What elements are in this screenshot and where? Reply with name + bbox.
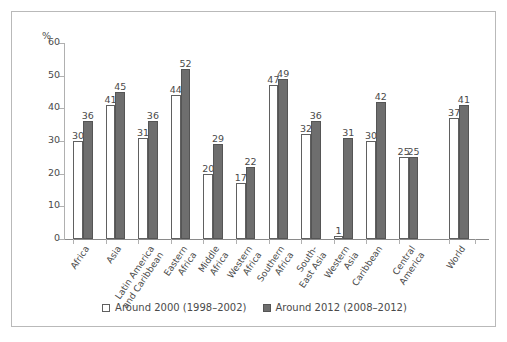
y-tick-label: 20 [48,167,60,179]
bar-2012: 25 [409,157,419,239]
bar-2012: 36 [148,121,158,239]
bar-value-label: 49 [277,68,289,79]
bar-2000: 31 [138,138,148,239]
y-tick-label: 40 [48,101,60,113]
chart-figure: % 0102030405060 303641453136445220291722… [11,11,496,327]
legend-label: Around 2000 (1998–2002) [115,302,246,313]
plot-area: 0102030405060 30364145313644522029172247… [64,43,489,239]
bar-value-label: 41 [458,94,470,105]
bar-2012: 49 [278,79,288,239]
bar-value-label: 36 [147,110,159,121]
bar-value-label: 45 [114,81,126,92]
x-tick-mark [73,239,74,244]
x-tick-mark [399,239,400,244]
bar-2012: 36 [83,121,93,239]
bar-value-label: 42 [375,91,387,102]
y-tick-label: 30 [48,134,60,146]
x-tick-mark [475,239,476,244]
y-tick-label: 10 [48,199,60,211]
bar-2012: 45 [115,92,125,239]
legend-item[interactable]: Around 2012 (2008–2012) [263,302,407,313]
bar-value-label: 29 [212,133,224,144]
x-category-label-text: Africa [69,244,92,271]
legend-item[interactable]: Around 2000 (1998–2002) [102,302,246,313]
chart-legend: Around 2000 (1998–2002)Around 2012 (2008… [12,302,497,313]
bar-value-label: 52 [179,58,191,69]
bar-value-label: 36 [82,110,94,121]
x-category-label-text: Asia [105,244,124,266]
bar-value-label: 36 [310,110,322,121]
legend-label: Around 2012 (2008–2012) [276,302,407,313]
filled-square-swatch [263,304,271,312]
bar-value-label: 31 [342,127,354,138]
bar-2012: 22 [246,167,256,239]
y-tick-label: 60 [48,36,60,48]
x-category-label-text: World [445,244,468,271]
bar-2012: 42 [376,102,386,239]
open-square-swatch [102,304,110,312]
bar-2000: 30 [73,141,83,239]
x-tick-mark [138,239,139,244]
x-tick-mark [449,239,450,244]
bar-2000: 37 [449,118,459,239]
bar-value-label: 25 [407,146,419,157]
bar-2012: 41 [459,105,469,239]
y-tick-label: 50 [48,69,60,81]
bar-2000: 41 [106,105,116,239]
x-tick-mark [106,239,107,244]
x-category-label-text: Central America [388,244,426,287]
y-tick-label: 0 [54,232,60,244]
bar-value-label: 22 [245,156,257,167]
